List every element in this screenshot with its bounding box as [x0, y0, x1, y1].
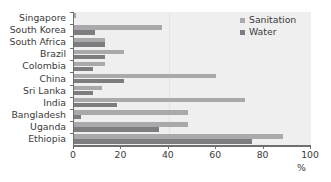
- bar-sanitation-singapore: [74, 13, 76, 17]
- bar-sanitation-south-africa: [74, 38, 105, 42]
- y-axis-label-south-africa: South Africa: [0, 37, 66, 46]
- y-axis-label-sri-lanka: Sri Lanka: [0, 86, 66, 95]
- legend-item-water[interactable]: Water: [240, 26, 296, 38]
- bar-water-china: [74, 79, 124, 83]
- bar-group: [74, 85, 311, 97]
- x-axis-label-60: 60: [202, 150, 228, 160]
- bar-water-south-africa: [74, 42, 105, 46]
- bar-water-india: [74, 103, 117, 107]
- legend-item-sanitation[interactable]: Sanitation: [240, 14, 296, 26]
- x-axis-unit-label: %: [297, 162, 306, 173]
- bar-group: [74, 133, 311, 145]
- bar-water-ethiopia: [74, 139, 252, 143]
- y-axis-label-brazil: Brazil: [0, 49, 66, 58]
- y-axis-labels: SingaporeSouth KoreaSouth AfricaBrazilCo…: [0, 12, 70, 145]
- x-axis-label-80: 80: [250, 150, 276, 160]
- bar-group: [74, 97, 311, 109]
- bar-sanitation-brazil: [74, 50, 124, 54]
- bar-sanitation-south-korea: [74, 25, 162, 29]
- bar-chart: SingaporeSouth KoreaSouth AfricaBrazilCo…: [0, 0, 331, 182]
- x-axis-line: [73, 145, 311, 147]
- bar-sanitation-china: [74, 74, 216, 78]
- x-axis-label-20: 20: [107, 150, 133, 160]
- y-axis-label-singapore: Singapore: [0, 13, 66, 22]
- bar-water-bangladesh: [74, 115, 81, 119]
- bar-water-colombia: [74, 67, 93, 71]
- bar-water-brazil: [74, 55, 105, 59]
- bar-water-uganda: [74, 127, 159, 131]
- y-axis-label-south-korea: South Korea: [0, 25, 66, 34]
- bar-group: [74, 109, 311, 121]
- bar-group: [74, 121, 311, 133]
- legend-label-sanitation: Sanitation: [249, 14, 296, 26]
- y-axis-label-uganda: Uganda: [0, 122, 66, 131]
- bar-water-sri-lanka: [74, 91, 93, 95]
- legend-label-water: Water: [249, 26, 276, 38]
- bar-sanitation-ethiopia: [74, 134, 283, 138]
- bar-sanitation-bangladesh: [74, 110, 188, 114]
- x-axis-label-0: 0: [60, 150, 86, 160]
- legend: Sanitation Water: [240, 14, 296, 38]
- x-axis-label-40: 40: [155, 150, 181, 160]
- y-axis-label-india: India: [0, 98, 66, 107]
- legend-swatch-water: [240, 30, 245, 35]
- y-axis-label-colombia: Colombia: [0, 61, 66, 70]
- bar-sanitation-uganda: [74, 122, 188, 126]
- bar-sanitation-sri-lanka: [74, 86, 102, 90]
- legend-swatch-sanitation: [240, 18, 245, 23]
- bar-group: [74, 60, 311, 72]
- bar-water-south-korea: [74, 30, 95, 34]
- bar-sanitation-india: [74, 98, 245, 102]
- x-axis-label-100: 100: [297, 150, 323, 160]
- y-axis-label-bangladesh: Bangladesh: [0, 110, 66, 119]
- bar-sanitation-colombia: [74, 62, 105, 66]
- bar-group: [74, 72, 311, 84]
- bar-group: [74, 48, 311, 60]
- y-axis-label-ethiopia: Ethiopia: [0, 134, 66, 143]
- y-axis-label-china: China: [0, 74, 66, 83]
